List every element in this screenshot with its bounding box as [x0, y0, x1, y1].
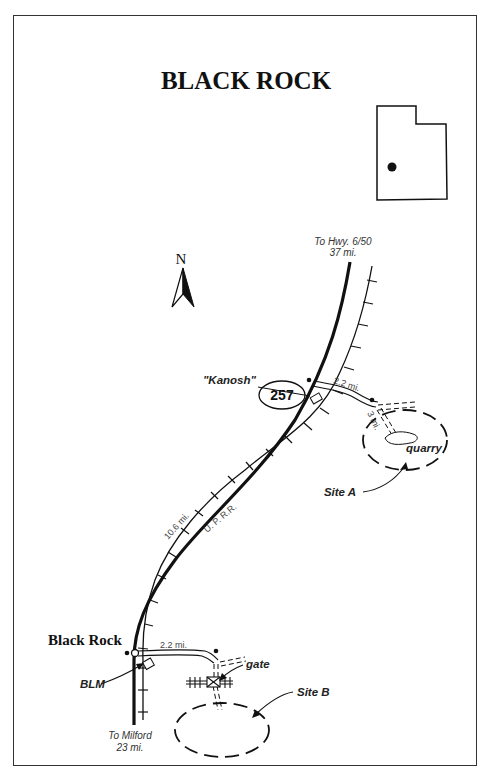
- south-destination-label: To Milford: [108, 730, 152, 741]
- black-rock-label: Black Rock: [48, 632, 122, 648]
- site-a-label: Site A: [324, 486, 356, 498]
- railroad-label: U. P. R.R.: [202, 502, 239, 535]
- location-dot-icon: [388, 163, 397, 172]
- north-arrow-icon: N: [172, 251, 194, 307]
- junction-point-icon: [370, 398, 375, 403]
- fence-gate-icon: [186, 677, 233, 688]
- black-rock-road-distance: 2.2 mi.: [160, 640, 187, 650]
- utah-inset-icon: [377, 106, 447, 200]
- kanosh-building-icon: [310, 393, 322, 404]
- north-label: N: [176, 251, 187, 267]
- north-destination-distance: 37 mi.: [329, 247, 356, 258]
- gate-area-point-icon: [214, 649, 219, 654]
- blm-label: BLM: [80, 678, 105, 690]
- quarry-trail: [377, 402, 415, 435]
- site-a-arrowhead-icon: [400, 462, 408, 470]
- kanosh-point-icon: [307, 378, 312, 383]
- south-destination-distance: 23 mi.: [115, 742, 143, 753]
- kanosh-label: "Kanosh": [203, 374, 257, 386]
- site-a-arrow: [363, 467, 404, 492]
- black-rock-point-icon: [125, 651, 130, 656]
- site-b-arrow: [256, 692, 293, 714]
- north-destination-label: To Hwy. 6/50: [314, 236, 372, 247]
- highway-257-shield: 257: [259, 381, 305, 409]
- map-canvas: BLACK ROCK N To Hwy. 6/50 37 mi.: [0, 0, 492, 779]
- site-b-label: Site B: [297, 686, 330, 698]
- gate-label: gate: [245, 658, 270, 670]
- map-title: BLACK ROCK: [161, 67, 332, 94]
- quarry-label: quarry: [406, 442, 442, 454]
- black-rock-junction-icon: [132, 650, 139, 657]
- gate-arrow: [222, 665, 243, 678]
